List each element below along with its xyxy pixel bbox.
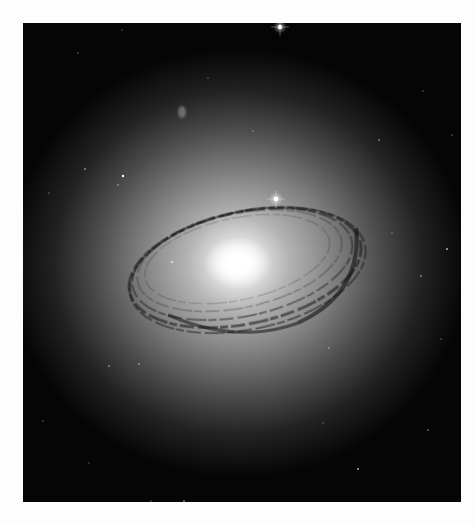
star — [391, 232, 392, 233]
star — [446, 248, 448, 250]
star — [422, 90, 423, 91]
galaxy-image — [23, 23, 461, 502]
star — [150, 500, 151, 501]
star — [323, 423, 324, 424]
star — [427, 429, 428, 430]
starfield-canvas — [23, 23, 461, 502]
star — [48, 192, 49, 193]
star — [122, 175, 124, 177]
star — [183, 500, 185, 502]
star — [208, 78, 209, 79]
star — [121, 29, 122, 30]
companion-galaxy — [178, 106, 186, 118]
star — [252, 130, 253, 131]
star — [42, 420, 43, 421]
star — [278, 25, 282, 29]
star — [138, 363, 139, 364]
star — [357, 468, 359, 470]
star — [84, 168, 86, 170]
star — [328, 347, 329, 348]
star — [77, 52, 78, 53]
star — [89, 463, 90, 464]
galaxy-nucleus — [226, 254, 250, 272]
star — [420, 275, 422, 277]
star — [108, 365, 110, 367]
star — [274, 197, 279, 202]
star — [171, 261, 173, 263]
star — [378, 139, 380, 141]
star — [440, 338, 441, 339]
star — [451, 134, 452, 135]
star — [117, 184, 118, 185]
